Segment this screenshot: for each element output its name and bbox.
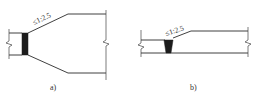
panel-b-wedge-joint [164, 40, 173, 53]
panel-a-slope-annotation: ≤1:2.5 [31, 10, 53, 26]
panel-a: ≤1:2.5 a) [6, 10, 109, 92]
panel-a-right-break-icon [103, 10, 109, 80]
panel-a-left-break-icon [6, 29, 12, 59]
panel-b: ≤1:2.5 b) [138, 23, 251, 92]
panel-b-right-break-icon [245, 27, 251, 57]
panel-b-slope-annotation: ≤1:2.5 [164, 23, 185, 38]
panel-b-label: b) [190, 83, 197, 92]
panel-a-joint-block [22, 33, 28, 55]
diagram-canvas: ≤1:2.5 a) ≤1:2.5 b) [0, 0, 256, 104]
panel-a-label: a) [50, 83, 57, 92]
panel-a-bottom-edge [28, 55, 106, 73]
